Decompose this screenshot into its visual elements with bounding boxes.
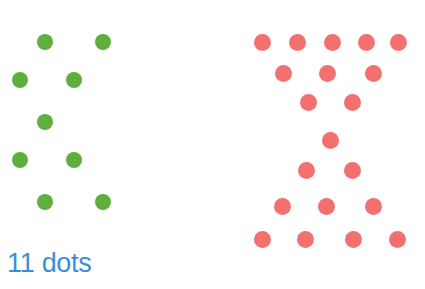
dot bbox=[319, 65, 336, 82]
dot bbox=[365, 65, 382, 82]
dot bbox=[297, 231, 314, 248]
dot bbox=[365, 198, 382, 215]
dot bbox=[322, 132, 339, 149]
dot bbox=[12, 152, 28, 168]
dot-counting-canvas: 11 dots bbox=[0, 0, 425, 289]
dot bbox=[254, 231, 271, 248]
dot bbox=[66, 72, 82, 88]
dot-count-label: 11 dots bbox=[7, 250, 91, 277]
dot bbox=[275, 65, 292, 82]
dot bbox=[298, 162, 315, 179]
dot bbox=[390, 34, 407, 51]
dot bbox=[344, 94, 361, 111]
dot bbox=[324, 34, 341, 51]
dot bbox=[389, 231, 406, 248]
dot bbox=[37, 114, 53, 130]
dot bbox=[274, 198, 291, 215]
dot bbox=[300, 94, 317, 111]
dot bbox=[12, 72, 28, 88]
green-dot-cluster bbox=[0, 0, 425, 289]
dot bbox=[37, 194, 53, 210]
dot bbox=[254, 34, 271, 51]
dot bbox=[37, 34, 53, 50]
dot bbox=[66, 152, 82, 168]
dot bbox=[318, 198, 335, 215]
dot bbox=[95, 34, 111, 50]
dot bbox=[289, 34, 306, 51]
dot bbox=[345, 231, 362, 248]
dot bbox=[344, 162, 361, 179]
dot bbox=[95, 194, 111, 210]
red-dot-cluster bbox=[0, 0, 425, 289]
dot bbox=[358, 34, 375, 51]
